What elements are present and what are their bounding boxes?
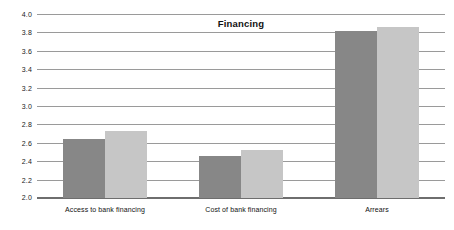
y-axis-tick-label: 4.0: [22, 11, 32, 18]
gridline: 4.0: [37, 14, 445, 15]
y-axis-tick-label: 3.4: [22, 66, 32, 73]
y-axis-tick-label: 3.6: [22, 47, 32, 54]
y-axis-tick-label: 2.6: [22, 139, 32, 146]
bar: [63, 139, 105, 198]
y-axis-tick-label: 3.0: [22, 103, 32, 110]
y-axis-tick-label: 2.4: [22, 158, 32, 165]
plot-area: Financing 4.03.83.63.43.23.02.82.62.42.2…: [37, 14, 445, 198]
y-axis-tick-label: 2.8: [22, 121, 32, 128]
bar: [377, 27, 419, 198]
financing-bar-chart: Financing 4.03.83.63.43.23.02.82.62.42.2…: [0, 0, 454, 230]
y-axis-tick-label: 2.0: [22, 194, 32, 201]
x-axis-category-label: Cost of bank financing: [205, 206, 276, 213]
bar: [199, 156, 241, 198]
x-axis-category-label: Arrears: [365, 206, 389, 213]
bar: [105, 131, 147, 198]
bar: [335, 31, 377, 198]
y-axis-tick-label: 3.2: [22, 84, 32, 91]
y-axis-tick-label: 2.2: [22, 176, 32, 183]
x-axis-category-label: Access to bank financing: [65, 206, 145, 213]
y-axis-tick-label: 3.8: [22, 29, 32, 36]
bar: [241, 150, 283, 198]
